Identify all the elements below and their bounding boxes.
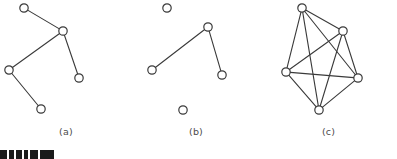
graph-edge (209, 31, 221, 71)
graph-node (282, 68, 290, 76)
strip-segment (40, 150, 54, 159)
panel-c-caption: (c) (260, 126, 397, 137)
graph-edge (64, 35, 77, 74)
graph-node (218, 71, 226, 79)
strip-segment (30, 150, 38, 159)
graph-node (37, 105, 45, 113)
graph-edge (289, 33, 339, 69)
figure-root: (a) (b) (c) (0, 0, 397, 159)
graph-edge (28, 10, 60, 29)
graph-edge (12, 73, 39, 106)
graph-node (298, 4, 306, 12)
graph-edge (289, 75, 317, 107)
graph-b-canvas (132, 0, 260, 126)
graph-node (315, 106, 323, 114)
graph-node (354, 74, 362, 82)
graph-node (179, 106, 187, 114)
strip-segment (16, 150, 22, 159)
graph-panel-b: (b) (132, 0, 260, 159)
graph-edge (305, 11, 356, 74)
graph-node (204, 23, 212, 31)
graph-edge (12, 33, 59, 67)
strip-segment (0, 150, 7, 159)
graph-panel-c: (c) (260, 0, 397, 159)
graph-node (59, 27, 67, 35)
graph-panel-a: (a) (0, 0, 132, 159)
graph-edge (155, 30, 204, 68)
graph-a-canvas (0, 0, 132, 126)
graph-node (5, 66, 13, 74)
graph-node (163, 4, 171, 12)
graph-edge (287, 12, 301, 68)
graph-node (339, 27, 347, 35)
strip-segment (24, 150, 28, 159)
graph-c-canvas (260, 0, 397, 126)
graph-node (148, 66, 156, 74)
strip-segment (9, 150, 14, 159)
graph-edge (290, 72, 354, 77)
bottom-strip-fragment (0, 150, 56, 159)
panel-b-caption: (b) (132, 126, 260, 137)
graph-node (20, 4, 28, 12)
panel-a-caption: (a) (0, 126, 132, 137)
graph-node (75, 74, 83, 82)
